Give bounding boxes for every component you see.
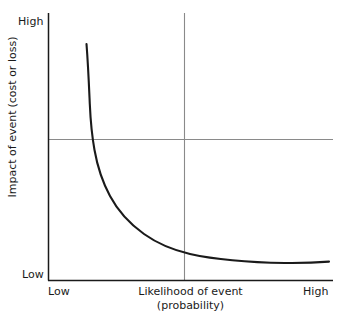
y-axis-tick-low: Low [22, 268, 44, 281]
x-axis-title: Likelihood of event (probability) [48, 285, 333, 313]
risk-impact-likelihood-chart: High Low Low High Likelihood of event (p… [0, 0, 341, 326]
y-axis-title: Impact of event (cost or loss) [6, 42, 36, 192]
x-axis-title-line2: (probability) [48, 299, 333, 313]
risk-curve [87, 44, 330, 263]
x-axis-title-line1: Likelihood of event [48, 285, 333, 299]
y-axis-tick-high: High [18, 15, 44, 28]
y-axis-title-line2: (cost or loss) [6, 37, 20, 108]
chart-canvas [0, 0, 341, 326]
y-axis-title-line1: Impact of event [6, 110, 20, 197]
